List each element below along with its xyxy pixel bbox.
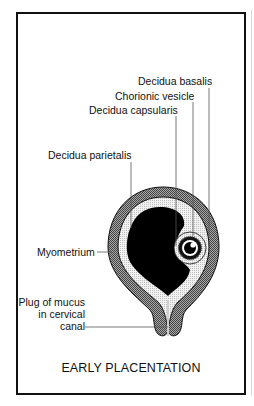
label-plug-line-1: Plug of mucus — [18, 296, 85, 308]
label-decidua-parietalis: Decidua parietalis — [48, 149, 131, 161]
label-plug-line-2: in cervical — [18, 308, 85, 320]
vesicle-highlight — [190, 242, 195, 247]
label-decidua-capsularis: Decidua capsularis — [89, 104, 178, 116]
label-chorionic-vesicle: Chorionic vesicle — [115, 90, 194, 102]
uterus-diagram — [0, 0, 254, 406]
label-decidua-basalis: Decidua basalis — [138, 75, 212, 87]
label-plug-of-mucus: Plug of mucus in cervical canal — [18, 296, 85, 332]
figure-title: EARLY PLACENTATION — [18, 361, 244, 375]
label-myometrium: Myometrium — [37, 246, 95, 258]
label-plug-line-3: canal — [18, 320, 85, 332]
